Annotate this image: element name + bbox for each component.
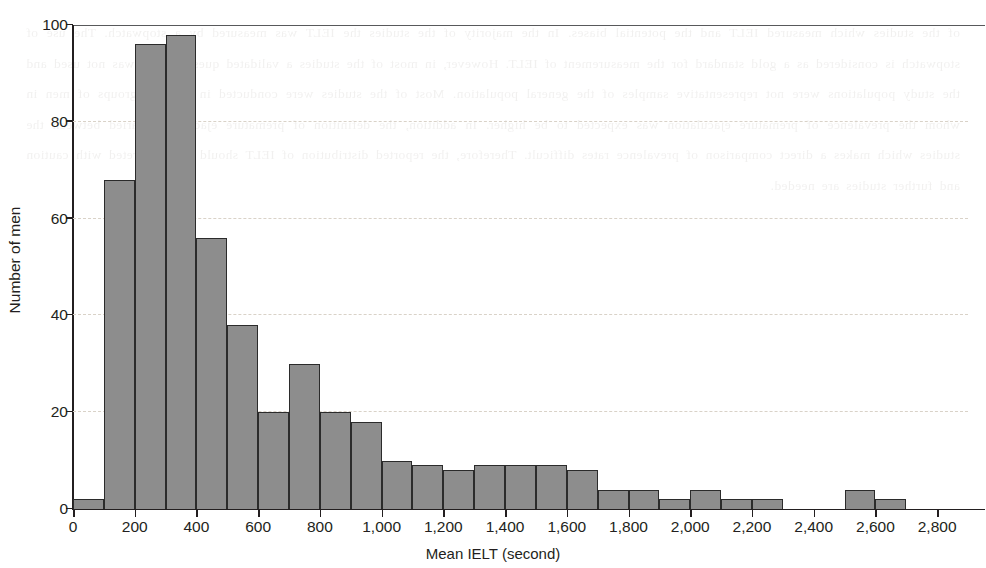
x-axis-tick-labels: 02004006008001,0001,2001,4001,6001,8002,… (73, 0, 968, 568)
x-tick-label: 600 (245, 519, 271, 535)
y-tick-mark (66, 411, 73, 413)
x-tick-label: 200 (122, 519, 148, 535)
y-tick-mark (66, 120, 73, 122)
y-tick-label: 100 (28, 17, 68, 33)
y-tick-label: 0 (28, 501, 68, 517)
y-axis-title: Number of men (2, 0, 28, 520)
y-tick-mark (66, 508, 73, 510)
x-tick-label: 2,200 (733, 519, 772, 535)
y-tick-label: 60 (28, 211, 68, 227)
x-tick-label: 1,400 (486, 519, 525, 535)
x-tick-label: 0 (69, 519, 78, 535)
y-axis-tick-labels: 020406080100 (26, 0, 68, 568)
x-tick-label: 1,800 (609, 519, 648, 535)
y-axis-title-label: Number of men (6, 207, 24, 314)
x-axis-title: Mean IELT (second) (0, 545, 986, 562)
x-tick-label: 800 (307, 519, 333, 535)
y-tick-label: 40 (28, 307, 68, 323)
x-tick-label: 1,600 (547, 519, 586, 535)
y-tick-label: 20 (28, 404, 68, 420)
x-tick-label: 2,400 (794, 519, 833, 535)
x-axis-title-label: Mean IELT (second) (426, 545, 561, 562)
y-tick-mark (66, 314, 73, 316)
x-tick-label: 400 (184, 519, 210, 535)
y-tick-mark (66, 217, 73, 219)
x-tick-label: 2,000 (671, 519, 710, 535)
x-tick-label: 1,000 (362, 519, 401, 535)
x-tick-label: 2,800 (918, 519, 957, 535)
histogram-figure: Number of men 020406080100 0200400600800… (0, 0, 986, 568)
x-tick-label: 1,200 (424, 519, 463, 535)
y-tick-mark (66, 24, 73, 26)
y-tick-label: 80 (28, 114, 68, 130)
x-tick-label: 2,600 (856, 519, 895, 535)
